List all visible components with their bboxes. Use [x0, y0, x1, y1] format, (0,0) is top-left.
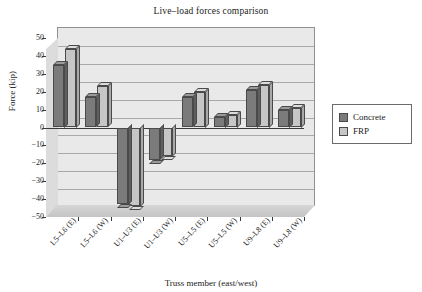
legend-label: Concrete	[353, 112, 385, 122]
bar-top	[129, 206, 144, 210]
x-tick-label: U1–U3 (W)	[142, 216, 174, 251]
x-tick-label: U5–L5 (E)	[177, 216, 207, 248]
bar-side	[64, 61, 68, 128]
chart-title: Live–load forces comparison	[0, 6, 422, 16]
bar-side	[172, 124, 176, 157]
bar-concrete-4	[149, 128, 160, 160]
x-tick-label: U1–U3 (E)	[112, 216, 143, 249]
x-axis-title: Truss member (east/west)	[0, 278, 422, 288]
x-tick-label: U9–L8 (E)	[241, 216, 271, 248]
bar-face	[182, 97, 193, 127]
x-axis-labels: L5–L6 (E)L5–L6 (W)U1–U3 (E)U1–U3 (W)U5–L…	[0, 214, 422, 274]
x-tick-label: U5–L5 (W)	[207, 216, 239, 250]
bar-concrete-6	[214, 117, 225, 128]
bar-side	[160, 124, 164, 160]
bar-concrete-7	[246, 90, 257, 128]
gridline	[58, 28, 314, 29]
bar-face	[117, 128, 128, 205]
live-load-forces-chart: Live–load forces comparison 50403020100−…	[0, 0, 422, 292]
chart-legend: ConcreteFRP	[332, 104, 412, 144]
bar-side	[140, 124, 144, 207]
bar-face	[85, 97, 96, 127]
bar-side	[193, 93, 197, 127]
y-tick-label: −20	[10, 159, 44, 167]
bar-face	[246, 90, 257, 128]
bar-side	[269, 81, 273, 128]
bar-side	[257, 86, 261, 128]
bar-face	[214, 117, 225, 128]
bar-side	[128, 124, 132, 205]
bar-face	[53, 65, 64, 128]
bar-side	[108, 82, 112, 127]
legend-swatch-icon	[339, 127, 348, 136]
bar-face	[278, 110, 289, 128]
x-tick-label: U9–L8 (W)	[272, 216, 304, 250]
bar-concrete-3	[117, 128, 128, 205]
y-axis-title: Force (kip)	[7, 41, 17, 141]
bar-concrete-8	[278, 110, 289, 128]
legend-item-concrete: Concrete	[339, 110, 405, 124]
bar-top	[149, 160, 164, 164]
x-tick-label: L5–L6 (E)	[48, 216, 77, 247]
bar-side	[205, 88, 209, 128]
bar-concrete-1	[53, 65, 64, 128]
legend-swatch-icon	[339, 113, 348, 122]
bar-concrete-5	[182, 97, 193, 127]
bar-face	[149, 128, 160, 160]
bar-side	[76, 45, 80, 128]
plot-area	[46, 38, 304, 217]
bar-side	[96, 93, 100, 127]
legend-item-frp: FRP	[339, 124, 405, 138]
x-tick-label: L5–L6 (W)	[79, 216, 110, 249]
y-tick-label: −40	[10, 195, 44, 203]
y-tick-label: −30	[10, 177, 44, 185]
bar-concrete-2	[85, 97, 96, 127]
legend-label: FRP	[353, 126, 369, 136]
y-tick-label: −10	[10, 141, 44, 149]
